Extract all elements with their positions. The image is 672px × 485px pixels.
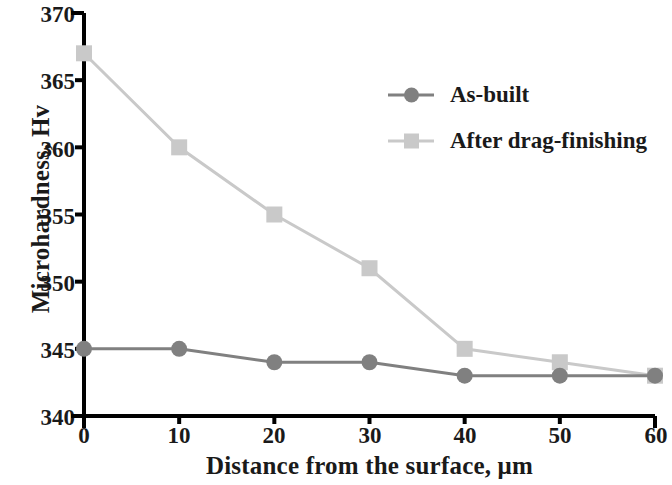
legend-marker-circle-icon xyxy=(404,88,419,103)
legend-label-after-drag-finishing: After drag-finishing xyxy=(450,128,647,154)
series-after-drag-finishing xyxy=(76,45,663,383)
legend-marker-square-icon xyxy=(404,134,419,149)
legend-label-as-built: As-built xyxy=(450,82,529,108)
series-as-built xyxy=(76,341,663,384)
